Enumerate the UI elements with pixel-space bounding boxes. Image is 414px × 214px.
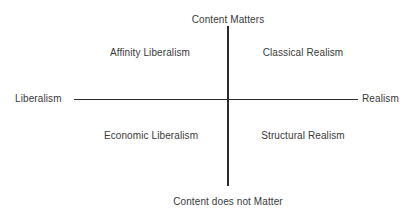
axis-label-left: Liberalism [15, 93, 62, 105]
axis-label-top: Content Matters [192, 14, 265, 26]
quadrant-label-upper-left: Affinity Liberalism [110, 47, 190, 59]
vertical-axis-line [227, 26, 229, 186]
axis-label-right: Realism [362, 93, 399, 105]
horizontal-axis-line [74, 99, 358, 101]
quadrant-label-upper-right: Classical Realism [263, 47, 344, 59]
quadrant-diagram: Content Matters Content does not Matter … [0, 0, 414, 214]
quadrant-label-lower-left: Economic Liberalism [104, 130, 198, 142]
axis-label-bottom: Content does not Matter [173, 196, 283, 208]
quadrant-label-lower-right: Structural Realism [261, 130, 345, 142]
